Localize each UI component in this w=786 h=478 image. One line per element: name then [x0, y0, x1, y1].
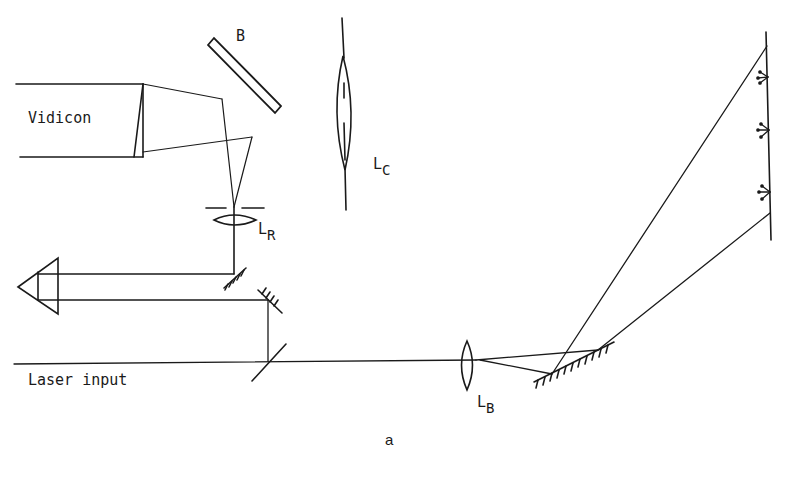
vidicon-label: Vidicon: [28, 111, 91, 126]
laser-input-label: Laser input: [28, 373, 127, 388]
figure-caption: a: [385, 432, 393, 447]
lens-b-label-sub: B: [486, 400, 494, 416]
lens-c-label-sub: C: [382, 162, 390, 178]
lens-r-label-main: L: [258, 220, 267, 238]
optical-setup-diagram: Vidicon B LC LR LB Laser input a: [0, 0, 786, 478]
laser-beam: [14, 360, 476, 364]
vidicon-rays: [143, 84, 252, 207]
beamsplitter: [208, 38, 281, 113]
scatterer-3: [758, 185, 770, 200]
lens-c-label: LC: [373, 157, 390, 172]
object-plane: [766, 32, 771, 240]
object-rays: [552, 46, 770, 374]
mirror-1: [224, 268, 246, 290]
lens-c-label-main: L: [373, 155, 382, 173]
lens-r-label-sub: R: [267, 227, 275, 243]
lens-b-label-main: L: [477, 393, 486, 411]
lens-c: [337, 18, 351, 210]
lens-b: [462, 341, 473, 390]
lens-r-label: LR: [258, 222, 275, 237]
grating-mirror: [534, 342, 614, 388]
beamsplitter-label: B: [236, 29, 245, 44]
scatterer-2: [757, 123, 769, 138]
reference-beams: [38, 274, 268, 361]
lens-b-label: LB: [477, 395, 494, 410]
lens-r: [206, 207, 264, 274]
retroreflector-prism: [18, 258, 58, 314]
diagram-drawing: [0, 0, 786, 478]
